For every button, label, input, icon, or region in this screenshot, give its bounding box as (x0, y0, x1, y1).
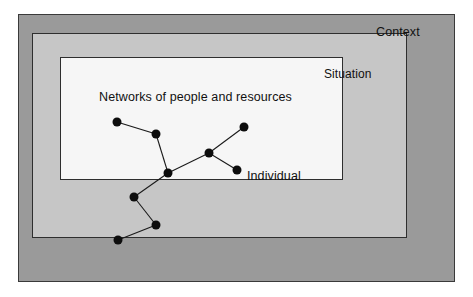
network-layer-box (60, 57, 343, 180)
individual-label: Individual (247, 169, 301, 183)
context-label: Context (376, 25, 420, 39)
diagram-canvas: Context Situation Networks of people and… (0, 0, 473, 297)
situation-label: Situation (324, 67, 372, 81)
networks-label: Networks of people and resources (99, 90, 292, 104)
